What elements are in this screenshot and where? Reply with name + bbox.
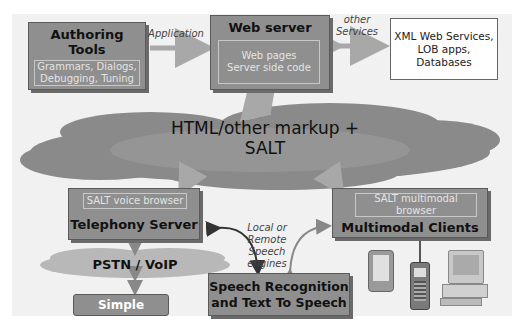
other-services-label: other Services	[332, 14, 382, 38]
multimodal-title: Multimodal Clients	[333, 220, 487, 235]
simple-phones-box: Simple phones	[73, 294, 169, 316]
speech-recognition-box: Speech Recognition and Text To Speech	[208, 273, 350, 316]
telephony-title: Telephony Server	[69, 217, 199, 232]
speech-engines-label: Local or Remote Speech engines	[232, 222, 302, 270]
mobile-phone-icon	[410, 262, 430, 310]
authoring-title-2: Tools	[29, 42, 145, 57]
pstn-label: PSTN / VoIP	[85, 257, 185, 272]
pda-icon	[368, 250, 394, 292]
multimodal-clients-box: SALT multimodal browser Multimodal Clien…	[332, 188, 488, 238]
telephony-server-box: SALT voice browser Telephony Server	[68, 188, 200, 240]
web-server-title: Web server	[211, 20, 329, 35]
web-server-detail: Web pages Server side code	[218, 40, 320, 84]
cloud-label: HTML/other markup + SALT	[150, 118, 380, 158]
web-server-box: Web server Web pages Server side code	[210, 15, 330, 90]
authoring-tools-box: Authoring Tools Grammars, Dialogs, Debug…	[28, 22, 146, 90]
authoring-detail: Grammars, Dialogs, Debugging, Tuning	[34, 60, 140, 86]
salt-voice-browser: SALT voice browser	[83, 193, 187, 209]
xml-services-box: XML Web Services, LOB apps, Databases	[390, 18, 498, 80]
salt-multimodal-browser: SALT multimodal browser	[355, 193, 477, 217]
authoring-title-1: Authoring	[29, 27, 145, 42]
application-label: Application	[148, 28, 204, 40]
desktop-computer-icon	[440, 250, 490, 308]
